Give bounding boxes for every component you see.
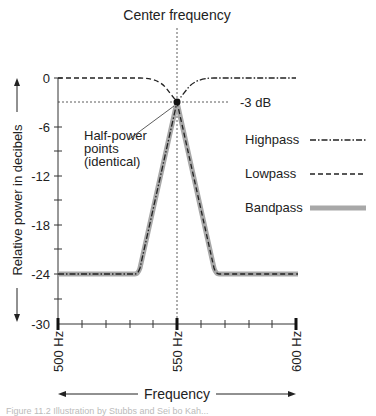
svg-text:-6: -6 bbox=[38, 120, 50, 135]
arrow-up-icon bbox=[14, 78, 20, 86]
arrow-left-icon bbox=[58, 391, 66, 397]
x-axis-label: Frequency bbox=[144, 386, 210, 402]
legend-bandpass-label: Bandpass bbox=[245, 200, 303, 215]
svg-text:-24: -24 bbox=[31, 267, 50, 282]
minus3db-label: -3 dB bbox=[240, 95, 271, 110]
bandpass-filter-chart: Center frequency -3 dB 0 -6 -12 -18 -24 … bbox=[0, 0, 376, 416]
svg-text:500 Hz: 500 Hz bbox=[51, 331, 66, 372]
chart-title: Center frequency bbox=[123, 7, 230, 23]
arrow-right-icon bbox=[288, 391, 296, 397]
svg-text:-12: -12 bbox=[31, 169, 50, 184]
svg-text:600 Hz: 600 Hz bbox=[289, 331, 304, 372]
svg-text:(identical): (identical) bbox=[84, 154, 140, 169]
figure-caption: Figure 11.2 Illustration by Stubbs and S… bbox=[6, 406, 208, 416]
svg-text:-18: -18 bbox=[31, 218, 50, 233]
svg-text:550 Hz: 550 Hz bbox=[170, 331, 185, 372]
svg-text:0: 0 bbox=[43, 71, 50, 86]
y-axis-label: Relative power in decibels bbox=[10, 124, 25, 276]
legend: Highpass Lowpass Bandpass bbox=[245, 132, 366, 215]
half-power-point bbox=[174, 99, 181, 106]
legend-highpass-label: Highpass bbox=[245, 132, 300, 147]
y-tick-labels: 0 -6 -12 -18 -24 -30 bbox=[31, 71, 50, 332]
legend-lowpass-label: Lowpass bbox=[245, 166, 297, 181]
x-tick-labels: 500 Hz 550 Hz 600 Hz bbox=[51, 331, 304, 372]
svg-text:-30: -30 bbox=[31, 317, 50, 332]
arrow-down-icon bbox=[14, 314, 20, 322]
half-power-annotation: Half-power points (identical) bbox=[84, 128, 148, 169]
